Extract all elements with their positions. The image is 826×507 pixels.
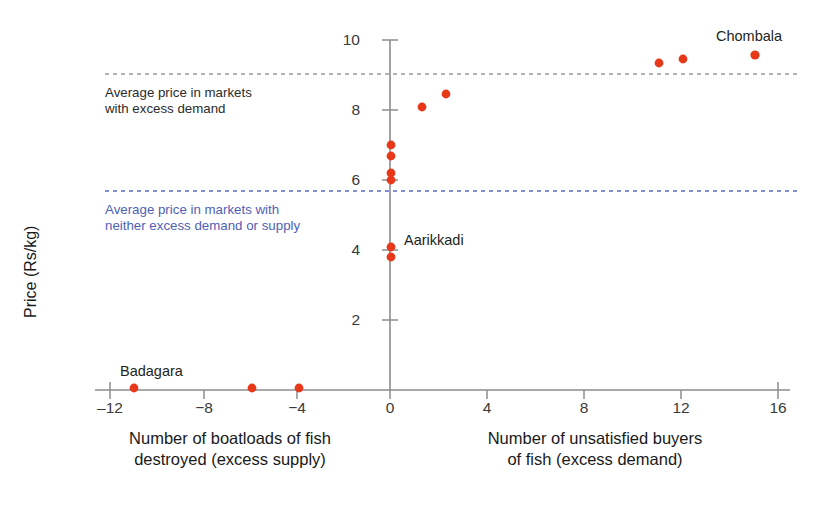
- x-axis-title-right: Number of unsatisfied buyers of fish (ex…: [435, 428, 755, 470]
- y-axis-title: Price (Rs/kg): [22, 226, 40, 318]
- annotation-neither-average: Average price in markets with neither ex…: [105, 202, 300, 235]
- data-point: [387, 253, 396, 262]
- y-tick-label-8: 8: [351, 101, 360, 119]
- data-point: [418, 103, 427, 112]
- scatter-chart: 2 4 6 8 10 ‒12 −8 −4 0 4 8 12 16 Price (…: [0, 0, 826, 507]
- point-label-aarikkadi: Aarikkadi: [404, 232, 464, 248]
- data-point: [750, 50, 759, 59]
- x-tick-label--8: −8: [195, 399, 213, 417]
- data-point: [387, 243, 396, 252]
- point-label-chombala: Chombala: [716, 28, 782, 44]
- annotation-excess-demand-average: Average price in markets with excess dem…: [105, 85, 252, 118]
- x-axis-title-left: Number of boatloads of fish destroyed (e…: [80, 428, 380, 470]
- x-tick-label--12: ‒12: [97, 399, 123, 417]
- x-tick-label-12: 12: [672, 399, 689, 417]
- x-tick-label-0: 0: [386, 399, 395, 417]
- data-point: [295, 384, 304, 393]
- y-tick-label-2: 2: [351, 311, 360, 329]
- data-point: [679, 55, 688, 64]
- x-tick-label--4: −4: [288, 399, 306, 417]
- data-point: [387, 176, 396, 185]
- y-tick-label-6: 6: [351, 171, 360, 189]
- y-tick-label-10: 10: [343, 31, 360, 49]
- data-point: [248, 384, 257, 393]
- x-tick-label-8: 8: [580, 399, 589, 417]
- point-label-badagara: Badagara: [120, 363, 183, 379]
- y-tick-label-4: 4: [351, 241, 360, 259]
- data-point: [387, 141, 396, 150]
- data-point: [655, 59, 664, 68]
- x-tick-label-4: 4: [483, 399, 492, 417]
- data-point: [130, 384, 139, 393]
- data-point: [442, 90, 451, 99]
- data-point: [387, 152, 396, 161]
- x-tick-label-16: 16: [769, 399, 786, 417]
